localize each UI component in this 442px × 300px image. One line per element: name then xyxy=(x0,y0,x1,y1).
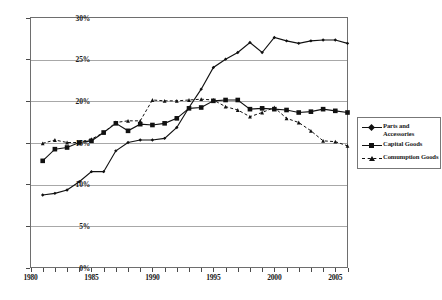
chart-figure: 0%5%10%15%20%25%30% 19801985199019952000… xyxy=(0,0,442,300)
x-tick-mark xyxy=(31,268,32,272)
legend-marker-icon xyxy=(361,154,383,163)
y-tick-label: 0% xyxy=(30,263,90,272)
x-tick-mark xyxy=(189,268,190,272)
x-tick-mark xyxy=(165,268,166,272)
x-tick-mark xyxy=(262,268,263,272)
x-tick-label: 1985 xyxy=(71,273,111,282)
legend-label: Comumption Goods xyxy=(383,153,438,161)
x-tick-mark xyxy=(55,268,56,272)
legend-label: Parts and Accessories xyxy=(383,122,414,137)
legend-marker-icon xyxy=(361,123,383,132)
legend-marker-icon xyxy=(361,141,383,150)
x-tick-mark xyxy=(335,268,336,272)
x-tick-mark xyxy=(250,268,251,272)
figure-caption xyxy=(6,289,436,300)
x-tick-mark xyxy=(79,268,80,272)
x-tick-mark xyxy=(323,268,324,272)
legend-item-2[interactable]: Capital Goods xyxy=(361,140,422,150)
x-tick-mark xyxy=(91,268,92,272)
x-tick-label: 1995 xyxy=(193,273,233,282)
x-tick-mark xyxy=(43,268,44,272)
x-tick-label: 2000 xyxy=(254,273,294,282)
x-tick-mark xyxy=(287,268,288,272)
x-tick-mark xyxy=(311,268,312,272)
x-tick-mark xyxy=(128,268,129,272)
x-tick-mark xyxy=(348,268,349,272)
x-tick-label: 2005 xyxy=(315,273,355,282)
legend-label: Capital Goods xyxy=(383,140,422,148)
x-tick-mark xyxy=(213,268,214,272)
legend-item-1[interactable]: Parts and Accessories xyxy=(361,122,414,137)
x-tick-label: 1990 xyxy=(132,273,172,282)
x-tick-mark xyxy=(152,268,153,272)
y-tick-label: 5% xyxy=(30,221,90,230)
x-tick-mark xyxy=(226,268,227,272)
x-tick-mark xyxy=(104,268,105,272)
y-tick-label: 15% xyxy=(30,138,90,147)
chart-legend: Parts and AccessoriesCapital GoodsComump… xyxy=(357,117,441,169)
y-tick-label: 20% xyxy=(30,96,90,105)
y-tick-label: 10% xyxy=(30,180,90,189)
x-tick-mark xyxy=(201,268,202,272)
x-tick-label: 1980 xyxy=(11,273,51,282)
x-tick-mark xyxy=(116,268,117,272)
x-tick-mark xyxy=(177,268,178,272)
x-tick-mark xyxy=(238,268,239,272)
x-tick-mark xyxy=(299,268,300,272)
x-tick-mark xyxy=(140,268,141,272)
legend-item-3[interactable]: Comumption Goods xyxy=(361,153,438,163)
y-tick-label: 30% xyxy=(30,13,90,22)
y-tick-label: 25% xyxy=(30,55,90,64)
x-tick-mark xyxy=(274,268,275,272)
x-tick-mark xyxy=(67,268,68,272)
